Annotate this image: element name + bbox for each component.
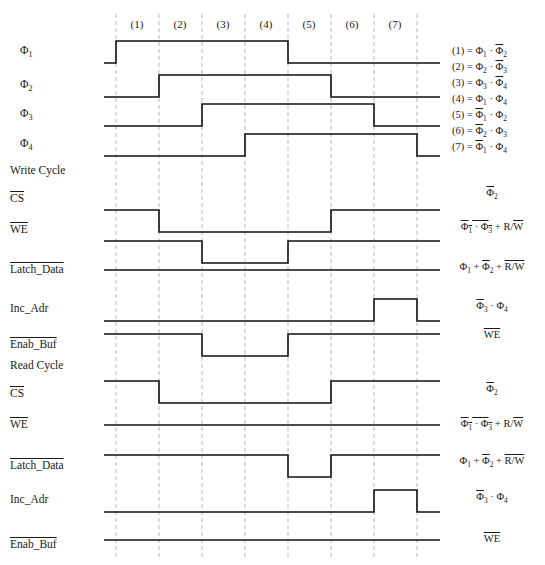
legend-equation-2: (2) = Φ2 · Φ3 xyxy=(452,62,507,73)
right-expression-read-we: Φ1 · Φ3 + R/W xyxy=(461,419,523,430)
phase-header-4: (4) xyxy=(260,18,273,31)
waveform-write-enab-buf xyxy=(104,334,440,356)
row-label-phi4: Φ4 xyxy=(20,138,32,150)
phase-header-6: (6) xyxy=(346,18,359,31)
right-expression-write-we: Φ1 · Φ3 + R/W xyxy=(461,222,523,233)
waveform-write-cs xyxy=(104,210,440,232)
right-expression-read-cs: Φ2 xyxy=(486,384,497,395)
right-expression-read-inc-adr: Φ3 · Φ4 xyxy=(476,492,507,503)
legend-equation-1: (1) = Φ1 · Φ2 xyxy=(452,46,507,57)
waveform-phi2 xyxy=(104,75,440,97)
waveform-phi4 xyxy=(104,134,440,156)
row-label-phi3: Φ3 xyxy=(20,108,32,120)
row-label-write-latch-data: Latch_Data xyxy=(10,264,64,276)
waveform-phi3 xyxy=(104,104,440,126)
legend-equation-6: (6) = Φ2 · Φ3 xyxy=(452,126,507,137)
legend-equation-3: (3) = Φ3 · Φ4 xyxy=(452,78,507,89)
waveform-read-latch-data xyxy=(104,455,440,477)
right-expression-read-enab-buf: WE xyxy=(484,534,500,545)
legend-equation-4: (4) = Φ1 · Φ4 xyxy=(452,94,507,105)
phase-header-3: (3) xyxy=(217,18,230,31)
row-label-write-we: WE xyxy=(10,224,28,236)
row-label-read-latch-data: Latch_Data xyxy=(10,460,64,472)
row-label-write-cs: CS xyxy=(10,193,24,205)
waveform-read-cs xyxy=(104,381,440,403)
right-expression-write-enab-buf: WE xyxy=(484,330,500,341)
row-label-read-enab-buf: Enab_Buf xyxy=(10,539,57,551)
waveform-group xyxy=(104,41,440,540)
right-expression-write-inc-adr: Φ3 · Φ4 xyxy=(476,301,507,312)
phase-header-2: (2) xyxy=(174,18,187,31)
row-label-phi1: Φ1 xyxy=(20,45,32,57)
right-expression-write-cs: Φ2 xyxy=(486,188,497,199)
row-label-read-cs: CS xyxy=(10,388,24,400)
row-label-read-inc-adr: Inc_Adr xyxy=(10,494,48,506)
right-expression-write-latch-data: Φ1 + Φ2 + R/W xyxy=(460,262,525,273)
waveform-write-we xyxy=(104,241,440,263)
phase-header-group: (1)(2)(3)(4)(5)(6)(7) xyxy=(131,18,402,31)
row-label-read-cycle-heading: Read Cycle xyxy=(10,360,63,372)
row-label-phi2: Φ2 xyxy=(20,79,32,91)
phase-header-7: (7) xyxy=(389,18,402,31)
waveform-read-inc-adr xyxy=(104,490,440,512)
phase-header-5: (5) xyxy=(303,18,316,31)
gridline-group xyxy=(116,14,417,558)
legend-equation-7: (7) = Φ1 · Φ4 xyxy=(452,142,507,153)
row-label-write-cycle-heading: Write Cycle xyxy=(10,165,65,177)
right-expression-read-latch-data: Φ1 + Φ2 + R/W xyxy=(460,456,525,467)
legend-equation-5: (5) = Φ1 · Φ2 xyxy=(452,110,507,121)
row-label-read-we: WE xyxy=(10,419,28,431)
phase-header-1: (1) xyxy=(131,18,144,31)
row-label-write-enab-buf: Enab_Buf xyxy=(10,339,57,351)
waveform-phi1 xyxy=(104,41,440,63)
waveform-write-inc-adr xyxy=(104,299,440,321)
row-label-write-inc-adr: Inc_Adr xyxy=(10,303,48,315)
